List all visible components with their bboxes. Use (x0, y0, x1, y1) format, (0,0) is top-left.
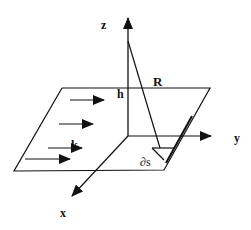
x-axis-label: x (60, 206, 66, 220)
surface-element-label: ∂s (140, 155, 151, 169)
z-axis-label: z (101, 18, 107, 32)
x-axis (72, 136, 128, 196)
distance-line-r (128, 41, 160, 148)
y-axis-label: y (234, 131, 240, 145)
coordinate-diagram: z y x h R k ∂s (0, 0, 251, 230)
height-label: h (117, 87, 124, 101)
distance-label: R (153, 74, 163, 89)
flow-arrows (25, 100, 104, 159)
wave-vector-label: k (71, 138, 78, 152)
